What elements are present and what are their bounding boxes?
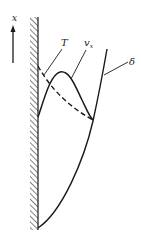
thickness-label: δ bbox=[129, 56, 135, 67]
delta-leader bbox=[104, 62, 128, 75]
velocity-label: vx bbox=[84, 37, 94, 49]
temperature-label: T bbox=[61, 37, 69, 48]
velocity-leader bbox=[71, 50, 86, 79]
temperature-leader bbox=[44, 49, 62, 75]
x-axis-label: x bbox=[12, 13, 17, 23]
wall-hatching bbox=[30, 17, 38, 230]
velocity-curve bbox=[38, 72, 93, 120]
boundary-layer-diagram: x T vx δ bbox=[0, 0, 141, 235]
x-axis-arrow bbox=[11, 25, 16, 63]
